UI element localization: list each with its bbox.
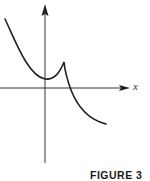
function-curve [5, 19, 106, 124]
graph-canvas [0, 0, 150, 181]
figure-caption: FIGURE 3 [90, 169, 142, 181]
x-axis-label: x [133, 80, 138, 92]
function-graph-figure: x FIGURE 3 [0, 0, 150, 181]
